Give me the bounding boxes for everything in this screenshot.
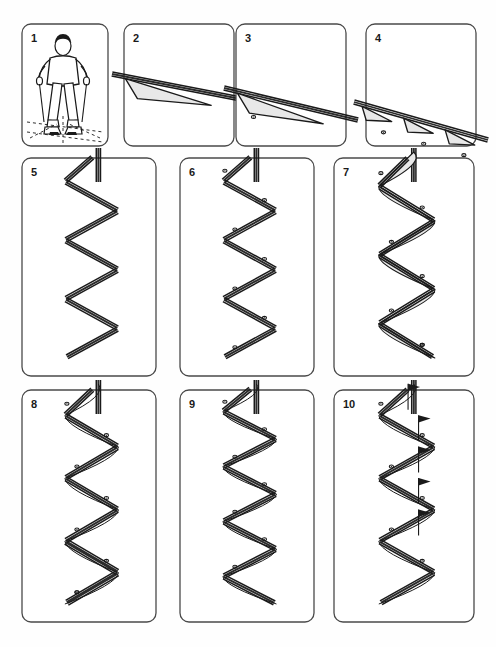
pole-plant-dot-center — [264, 317, 265, 318]
pole-plant-dot-center — [264, 259, 265, 260]
panel-border — [236, 24, 346, 146]
pole-plant-dot-center — [106, 498, 107, 499]
pole-plant-dot-center — [106, 560, 107, 561]
pole-plant-dot-center — [423, 143, 424, 144]
panel: 9 — [180, 380, 314, 622]
pole-plant-dot-center — [422, 276, 423, 277]
pole-plant-dot-center — [391, 529, 392, 530]
skier-hand-left — [37, 77, 43, 85]
pole-plant-dot-center — [234, 456, 235, 457]
pole-plant-dot-center — [224, 401, 225, 402]
panel-number-label: 9 — [189, 398, 195, 410]
skier-torso — [47, 56, 79, 86]
panel-border — [22, 158, 156, 376]
ski-boot-right — [67, 120, 79, 127]
pole-plant-dot-center — [234, 229, 235, 230]
panel: 4 — [353, 24, 488, 157]
panel: 5 — [22, 148, 156, 376]
panel-number-label: 5 — [31, 166, 37, 178]
pole-plant-dot-center — [76, 592, 77, 593]
panel: 8 — [22, 380, 156, 622]
pole-plant-dot-center — [234, 511, 235, 512]
pole-plant-dot-center — [380, 403, 381, 404]
pole-plant-dot-center — [463, 155, 464, 156]
pole-plant-dot-center — [422, 498, 423, 499]
pole-plant-dot-center — [264, 539, 265, 540]
pole-plant-dot-center — [391, 466, 392, 467]
panel: 6 — [180, 148, 314, 376]
pole-plant-dot-center — [264, 484, 265, 485]
instruction-diagram: 12345678910 — [0, 0, 496, 647]
panel: 3 — [224, 24, 359, 146]
panel-number-label: 8 — [31, 398, 37, 410]
pole-plant-dot-center — [76, 529, 77, 530]
panel-border — [180, 158, 314, 376]
panel: 7 — [334, 148, 474, 376]
panel-number-label: 7 — [343, 166, 349, 178]
panel: 10 — [334, 380, 474, 622]
pole-plant-dot-center — [253, 117, 254, 118]
pole-plant-dot-center — [76, 466, 77, 467]
pole-plant-dot-center — [106, 435, 107, 436]
pole-plant-dot-center — [234, 347, 235, 348]
panel-number-label: 3 — [245, 32, 251, 44]
pole-plant-dot-center — [224, 170, 225, 171]
pole-plant-dot-center — [422, 344, 423, 345]
pole-plant-dot-center — [264, 200, 265, 201]
pole-plant-dot-center — [234, 566, 235, 567]
pole-plant-dot-center — [264, 429, 265, 430]
panels-layer: 12345678910 — [22, 24, 489, 622]
panel-number-label: 2 — [133, 32, 139, 44]
pole-plant-dot-center — [391, 310, 392, 311]
pole-plant-dot-center — [234, 288, 235, 289]
panel: 1 — [22, 24, 108, 146]
panel-number-label: 6 — [189, 166, 195, 178]
panel-number-label: 4 — [375, 32, 382, 44]
instruction-sheet: 12345678910 — [0, 0, 496, 647]
panel: 2 — [112, 24, 247, 146]
skier-hand-right — [84, 77, 90, 85]
pole-plant-dot-center — [391, 241, 392, 242]
pole-plant-dot-center — [66, 403, 67, 404]
pole-plant-dot-center — [380, 173, 381, 174]
pole-plant-dot-center — [383, 132, 384, 133]
panel-number-label: 10 — [343, 398, 355, 410]
pole-plant-dot-center — [422, 435, 423, 436]
panel-number-label: 1 — [31, 32, 37, 44]
pole-plant-dot-center — [422, 207, 423, 208]
pole-plant-dot-center — [422, 560, 423, 561]
